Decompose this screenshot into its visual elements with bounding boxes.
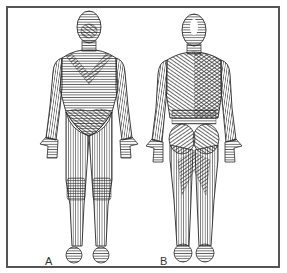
anterior-left-arm (46, 58, 62, 140)
posterior-crown (190, 19, 198, 35)
anterior-left-hand (40, 137, 58, 158)
panel-label-b: B (160, 255, 167, 267)
posterior-lower-back (172, 110, 216, 124)
anterior-face (81, 24, 97, 38)
panel-label-a: A (45, 255, 52, 267)
posterior-right-hand (225, 139, 242, 162)
anterior-right-hand (120, 137, 138, 158)
anterior-neck (82, 41, 96, 51)
posterior-left-heel (174, 244, 192, 262)
posterior-thigh-diagonals (178, 152, 210, 195)
body-diagrams (0, 0, 287, 273)
anterior-right-knee (93, 178, 111, 200)
posterior-figure (146, 14, 242, 262)
anterior-figure (40, 11, 138, 263)
anterior-left-knee (67, 178, 85, 200)
posterior-right-arm (221, 60, 236, 142)
posterior-left-hand (146, 139, 163, 162)
posterior-left-arm (152, 60, 167, 142)
posterior-right-heel (196, 244, 214, 262)
anterior-left-foot (66, 247, 82, 263)
anterior-right-arm (116, 58, 132, 140)
anterior-right-foot (93, 247, 109, 263)
posterior-back-right (194, 52, 222, 118)
